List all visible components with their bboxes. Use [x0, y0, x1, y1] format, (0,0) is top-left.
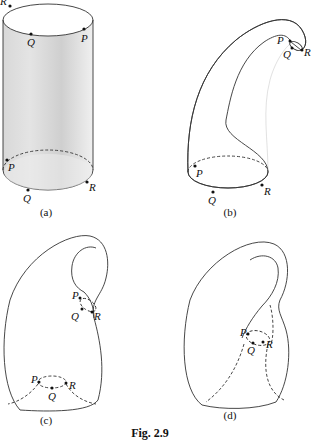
panel-c: P Q R P Q R (c) [4, 236, 108, 427]
label-q-base: Q [208, 194, 216, 206]
cylinder-top-rim [3, 4, 93, 36]
c-label-q-top: Q [71, 310, 79, 322]
point-p-top [82, 27, 85, 30]
c-point-q-top [81, 308, 84, 311]
c-label-r-base: R [68, 379, 76, 391]
label-q-top: Q [27, 36, 35, 48]
horn-shade-line [266, 42, 293, 172]
c-base-rim [38, 376, 66, 388]
label-r-small: R [303, 46, 311, 58]
panel-label-b: (b) [224, 206, 237, 219]
panel-b-horn: P Q R P Q R (b) [188, 20, 311, 219]
d-seam-left [206, 344, 244, 402]
c-outer-body [4, 236, 108, 411]
panel-label-a: (a) [40, 206, 53, 219]
d-point-p [247, 333, 250, 336]
d-label-r: R [265, 338, 273, 350]
label-r-base: R [263, 185, 271, 197]
c-label-r-top: R [93, 310, 101, 322]
c-point-p-top [79, 297, 82, 300]
c-handle-inner [72, 247, 96, 292]
c-label-q-base: Q [48, 390, 56, 402]
d-point-r [262, 341, 265, 344]
figure-canvas: R Q P P Q R (a) P Q R P Q R (b) [0, 0, 313, 443]
label-p-base: P [195, 167, 203, 179]
c-point-r-base [65, 382, 68, 385]
label-p-top: P [80, 32, 88, 44]
d-label-p: P [239, 326, 247, 338]
horn-outer-edge [188, 20, 306, 172]
c-label-p-top: P [71, 289, 79, 301]
point-p-small [289, 40, 292, 43]
d-label-q: Q [247, 344, 255, 356]
label-r-top: R [0, 0, 7, 7]
panel-label-c: (c) [40, 414, 53, 427]
label-p-small: P [276, 34, 284, 46]
c-seam-left [8, 384, 38, 404]
c-point-p-base [38, 381, 41, 384]
panel-label-d: (d) [224, 409, 237, 422]
c-handle-neck [84, 292, 94, 318]
cylinder-bottom-fill [4, 154, 92, 190]
label-q-small: Q [283, 48, 291, 60]
panel-a-cylinder: R Q P P Q R (a) [0, 0, 96, 219]
horn-body [188, 20, 306, 188]
point-r-top [8, 4, 11, 7]
label-q-bottom: Q [23, 192, 31, 204]
label-r-bottom: R [88, 181, 96, 193]
c-label-p-base: P [30, 373, 38, 385]
label-p-bottom: P [7, 161, 15, 173]
panel-d-klein-bottle: P Q R (d) [184, 242, 289, 422]
figure-caption: Fig. 2.9 [131, 426, 169, 440]
